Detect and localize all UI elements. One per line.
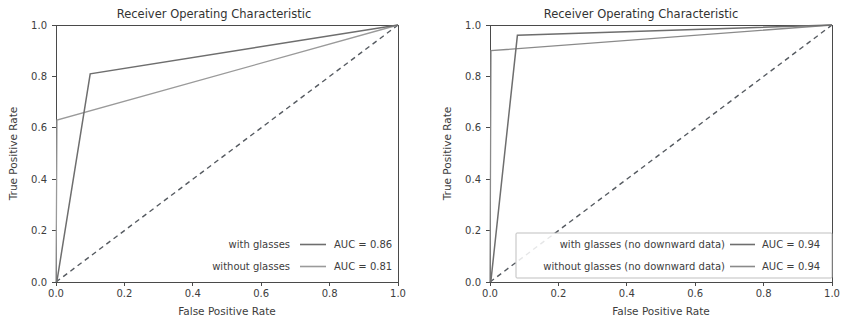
- x-tick-label: 1.0: [390, 288, 406, 299]
- y-tick-label: 0.2: [465, 225, 481, 236]
- y-axis-label-left: True Positive Rate: [7, 107, 19, 202]
- y-tick-label: 1.0: [465, 20, 481, 31]
- x-axis-label-left: False Positive Rate: [178, 305, 276, 317]
- x-tick-label: 0.0: [482, 288, 498, 299]
- legend-label: with glasses: [229, 239, 290, 250]
- y-ticks-right: [486, 25, 490, 282]
- legend-auc: AUC = 0.86: [334, 239, 392, 250]
- y-tick-label: 0.0: [31, 277, 47, 288]
- y-ticks-left: [52, 25, 56, 282]
- roc-figure: Receiver Operating Characteristic 0.0 0.…: [0, 0, 855, 331]
- y-tick-label: 0.4: [31, 174, 47, 185]
- x-ticks-right: [490, 282, 832, 286]
- y-tick-label: 1.0: [31, 20, 47, 31]
- x-tick-label: 0.2: [116, 288, 132, 299]
- y-tick-label: 0.0: [465, 277, 481, 288]
- x-tick-label: 1.0: [824, 288, 840, 299]
- plot-title-left: Receiver Operating Characteristic: [117, 7, 312, 21]
- roc-panel-right: Receiver Operating Characteristic 0.0 0.…: [428, 0, 855, 331]
- y-tick-label: 0.8: [31, 71, 47, 82]
- y-tick-label: 0.2: [31, 225, 47, 236]
- y-tick-labels-left: 0.0 0.2 0.4 0.6 0.8 1.0: [31, 20, 47, 288]
- x-tick-label: 0.2: [550, 288, 566, 299]
- y-tick-label: 0.6: [465, 122, 481, 133]
- x-axis-label-right: False Positive Rate: [612, 305, 710, 317]
- legend-label: without glasses: [212, 261, 290, 272]
- x-tick-label: 0.6: [253, 288, 269, 299]
- x-tick-label: 0.0: [48, 288, 64, 299]
- x-tick-label: 0.8: [322, 288, 338, 299]
- legend-auc: AUC = 0.81: [334, 261, 392, 272]
- x-tick-label: 0.6: [687, 288, 703, 299]
- x-tick-label: 0.8: [756, 288, 772, 299]
- x-tick-labels-left: 0.0 0.2 0.4 0.6 0.8 1.0: [48, 288, 406, 299]
- legend-label: with glasses (no downward data): [560, 239, 725, 250]
- plot-title-right: Receiver Operating Characteristic: [544, 7, 739, 21]
- x-tick-labels-right: 0.0 0.2 0.4 0.6 0.8 1.0: [482, 288, 840, 299]
- x-ticks-left: [56, 282, 398, 286]
- roc-plot-left: Receiver Operating Characteristic 0.0 0.…: [0, 0, 428, 331]
- y-tick-label: 0.6: [31, 122, 47, 133]
- x-tick-label: 0.4: [185, 288, 201, 299]
- legend-right: with glasses (no downward data) AUC = 0.…: [516, 233, 832, 278]
- legend-label: without glasses (no downward data): [543, 261, 725, 272]
- roc-panel-left: Receiver Operating Characteristic 0.0 0.…: [0, 0, 428, 331]
- roc-plot-right: Receiver Operating Characteristic 0.0 0.…: [428, 0, 855, 331]
- y-tick-label: 0.4: [465, 174, 481, 185]
- x-tick-label: 0.4: [619, 288, 635, 299]
- y-axis-label-right: True Positive Rate: [441, 107, 453, 202]
- legend-auc: AUC = 0.94: [762, 261, 820, 272]
- legend-auc: AUC = 0.94: [762, 239, 820, 250]
- y-tick-labels-right: 0.0 0.2 0.4 0.6 0.8 1.0: [465, 20, 481, 288]
- y-tick-label: 0.8: [465, 71, 481, 82]
